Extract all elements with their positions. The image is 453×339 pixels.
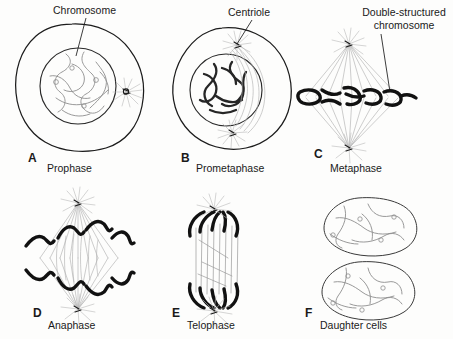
centrosome-c-bottom: [332, 133, 366, 163]
panel-name-b: Prometaphase: [196, 162, 264, 174]
cell-membrane-f-upper: [324, 198, 417, 256]
double-chromosome-leader-line: [381, 34, 390, 92]
panel-letter-c: C: [314, 147, 323, 161]
condensed-chromosomes-b: [200, 62, 246, 113]
panel-c-metaphase: Double-structured chromosome C Metaphase: [298, 6, 446, 174]
panel-letter-f: F: [305, 306, 312, 320]
panel-letter-e: E: [172, 306, 180, 320]
metaphase-chromosomes: [298, 87, 416, 105]
nuclear-envelope-a: [40, 48, 116, 124]
callout-double-structured-line1: Double-structured: [362, 6, 446, 18]
chromatin-threads-a: [50, 52, 109, 116]
panel-b-prometaphase: Centriole B Prometaphase: [173, 6, 291, 174]
callout-chromosome: Chromosome: [53, 4, 116, 16]
panel-f-daughter-cells: F Daughter cells: [305, 198, 417, 331]
callout-double-structured-line2: chromosome: [374, 19, 435, 31]
panel-name-e: Telophase: [187, 319, 235, 331]
anaphase-chromosomes-lower: [26, 270, 134, 294]
panel-letter-a: A: [28, 151, 37, 165]
panel-a-prophase: Chromosome A Prophase: [16, 4, 144, 174]
panel-name-f: Daughter cells: [320, 319, 387, 331]
mitosis-diagram: Chromosome A Prophase: [0, 0, 453, 339]
centrosome-a: [113, 78, 142, 107]
panel-letter-d: D: [33, 306, 42, 320]
diagram-canvas: Chromosome A Prophase: [0, 0, 453, 339]
daughter-cell-upper: [324, 198, 417, 256]
panel-d-anaphase: D Anaphase: [26, 187, 134, 331]
centrosome-c-top: [332, 28, 366, 54]
spindle-fibers-b: [230, 44, 265, 133]
panel-name-c: Metaphase: [330, 162, 382, 174]
spindle-fibers-d: [40, 203, 118, 309]
centrosome-e-top: [197, 193, 232, 219]
daughter-cell-lower: [322, 262, 415, 320]
anaphase-chromosomes-upper: [26, 222, 134, 246]
interzonal-fibers-e: [196, 224, 238, 294]
panel-name-a: Prophase: [47, 162, 92, 174]
panel-name-d: Anaphase: [48, 319, 95, 331]
nuclear-envelope-b: [190, 54, 262, 126]
telophase-chromosomes-bottom: [190, 284, 238, 308]
callout-centriole: Centriole: [228, 6, 270, 18]
panel-letter-b: B: [181, 151, 190, 165]
centrosome-b-top: [223, 31, 251, 60]
centriole-leader-line: [237, 20, 252, 44]
centrosome-b-bottom: [218, 120, 247, 148]
panel-e-telophase: E Telophase: [172, 193, 238, 331]
